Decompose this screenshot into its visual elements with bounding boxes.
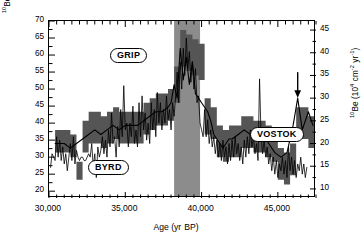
y-right-tick-label: 40 bbox=[320, 48, 342, 56]
y-axis-right-title: 10Be (104 cm-2 yr-1) bbox=[344, 8, 362, 118]
callout-byrd: BYRD bbox=[88, 160, 129, 175]
y-left-tick-label: 70 bbox=[22, 16, 44, 24]
y-left-tick-label: 50 bbox=[22, 84, 44, 92]
y-left-tick-label: 35 bbox=[22, 135, 44, 143]
y-right-tick-label: 15 bbox=[320, 161, 342, 169]
callout-grip: GRIP bbox=[110, 48, 147, 63]
y-left-tick-label: 30 bbox=[22, 152, 44, 160]
y-right-tick-label: 10 bbox=[320, 184, 342, 192]
x-tick-label: 40,000 bbox=[171, 204, 231, 213]
y-left-tick-label: 45 bbox=[22, 101, 44, 109]
x-tick-label: 45,000 bbox=[247, 204, 307, 213]
x-tick-label: 30,000 bbox=[18, 204, 78, 213]
y-left-tick-label: 65 bbox=[22, 33, 44, 41]
y-left-tick-label: 55 bbox=[22, 67, 44, 75]
y-left-tick-label: 25 bbox=[22, 169, 44, 177]
y-left-tick-label: 20 bbox=[22, 186, 44, 194]
y-right-tick-label: 35 bbox=[320, 70, 342, 78]
y-left-tick-label: 60 bbox=[22, 50, 44, 58]
x-tick-label: 35,000 bbox=[94, 204, 154, 213]
y-right-tick-label: 30 bbox=[320, 93, 342, 101]
y-right-tick-label: 45 bbox=[320, 25, 342, 33]
y-right-tick-label: 25 bbox=[320, 116, 342, 124]
callout-vostok: VOSTOK bbox=[250, 127, 304, 142]
y-axis-left-title: 10Be (104 cm-2 yr-1) bbox=[0, 0, 14, 38]
y-left-tick-label: 40 bbox=[22, 118, 44, 126]
y-right-tick-label: 20 bbox=[320, 139, 342, 147]
x-axis-title: Age (yr BP) bbox=[0, 222, 352, 232]
